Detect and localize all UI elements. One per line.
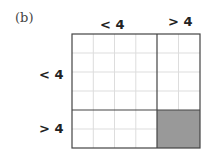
shaded-block [157, 110, 200, 148]
grid-diagram [0, 0, 211, 157]
